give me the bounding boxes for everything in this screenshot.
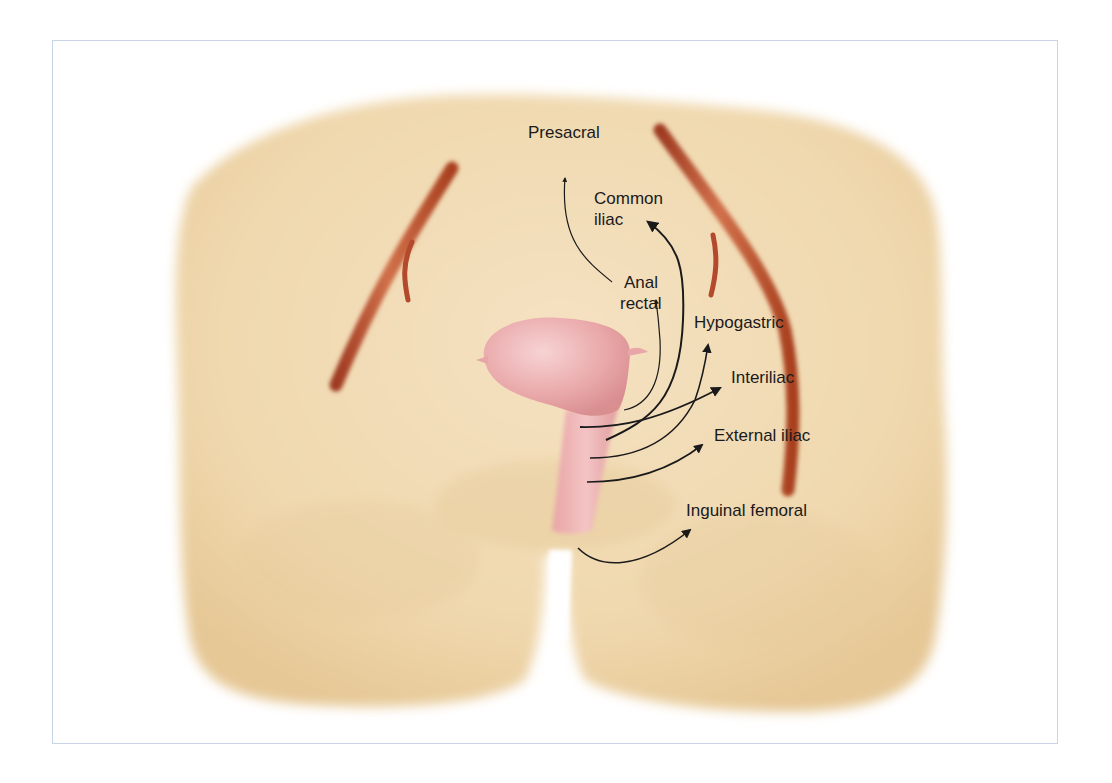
label-presacral: Presacral xyxy=(528,122,600,143)
label-anal-rectal: Anal rectal xyxy=(620,272,670,314)
label-inguinal-femoral: Inguinal femoral xyxy=(686,500,807,521)
label-common-iliac: Common iliac xyxy=(594,188,663,230)
label-common-iliac-line1: Common xyxy=(594,188,663,209)
label-common-iliac-line2: iliac xyxy=(594,209,663,230)
label-interiliac: Interiliac xyxy=(731,367,794,388)
label-external-iliac: External iliac xyxy=(714,425,810,446)
label-anal-rectal-line2: rectal xyxy=(620,293,670,314)
anatomy-illustration xyxy=(0,0,1112,783)
label-hypogastric: Hypogastric xyxy=(694,312,784,333)
label-anal-rectal-line1: Anal xyxy=(620,272,670,293)
